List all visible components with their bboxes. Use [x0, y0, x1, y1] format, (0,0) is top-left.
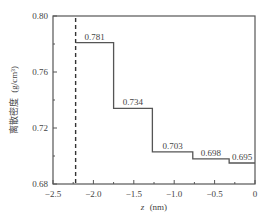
x-tick-label: 0 [253, 189, 258, 199]
y-tick-label: 0.80 [32, 11, 48, 21]
x-tick-label: −2.5 [45, 189, 62, 199]
y-tick-label: 0.68 [32, 179, 48, 189]
value-labels: 0.7810.7340.7030.6980.695 [84, 32, 252, 162]
x-axis-var: z [140, 202, 145, 212]
x-tick-label: −1.0 [166, 189, 183, 199]
y-axis-unit: (g/cm³) [9, 66, 19, 93]
x-axis-unit: (nm) [150, 202, 168, 212]
y-tick-label: 0.76 [32, 67, 48, 77]
x-tick-label: −0.5 [206, 189, 223, 199]
y-axis-text: 离散密度 [8, 98, 19, 134]
x-tick-label: −2.0 [85, 189, 102, 199]
segment-value-label: 0.703 [162, 141, 183, 151]
segment-value-label: 0.698 [201, 148, 222, 158]
segment-value-label: 0.695 [232, 152, 253, 162]
y-tick-label: 0.72 [32, 123, 48, 133]
x-tick-label: −1.5 [126, 189, 143, 199]
x-tick-labels: −2.5−2.0−1.5−1.0−0.50 [45, 189, 258, 199]
segment-value-label: 0.734 [123, 97, 144, 107]
step-chart: −2.5−2.0−1.5−1.0−0.50 0.680.720.760.80 0… [0, 0, 266, 220]
x-axis-title: z (nm) [140, 202, 167, 212]
y-axis-title: 离散密度 (g/cm³) [8, 66, 19, 134]
y-tick-labels: 0.680.720.760.80 [32, 11, 48, 189]
segment-value-label: 0.781 [84, 32, 104, 42]
